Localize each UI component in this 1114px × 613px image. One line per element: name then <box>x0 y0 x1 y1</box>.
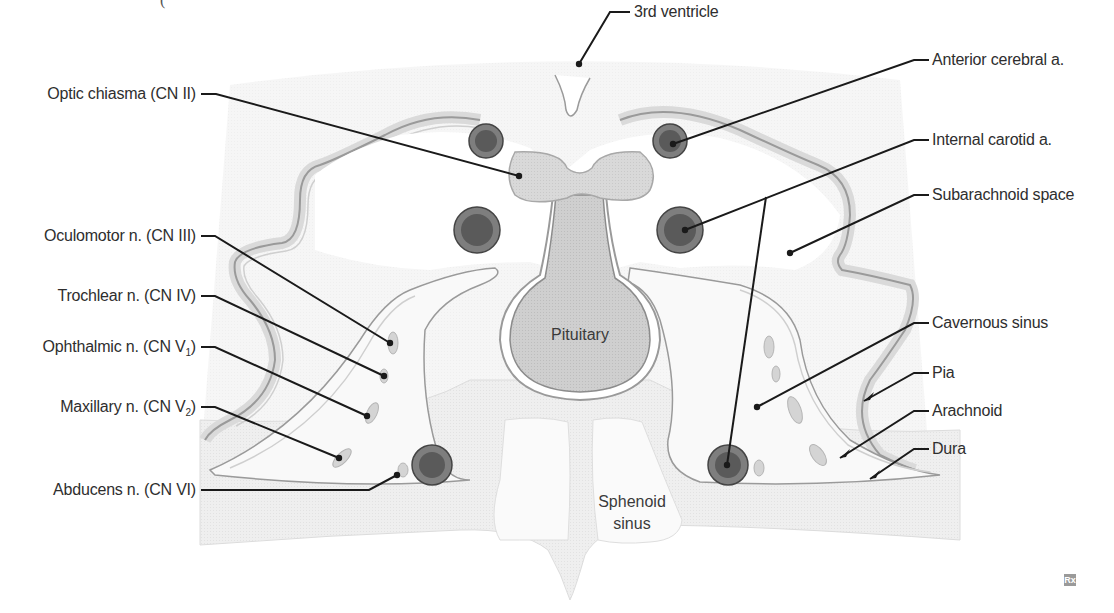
internal-carotid-artery-left-lower <box>412 445 452 485</box>
cavernous-sinus-diagram: ( Optic chiasma (CN II) Oculomotor n. (C… <box>0 0 1114 613</box>
internal-carotid-artery-left-upper <box>454 207 500 253</box>
label-sphenoid-sinus-line1: Sphenoid <box>592 492 672 512</box>
internal-carotid-artery-right-upper <box>657 207 703 253</box>
label-subarachnoid-space: Subarachnoid space <box>932 186 1074 204</box>
label-sphenoid-sinus-line2: sinus <box>592 514 672 534</box>
label-optic-chiasma: Optic chiasma (CN II) <box>47 85 196 103</box>
label-trochlear-nerve: Trochlear n. (CN IV) <box>57 287 196 305</box>
label-maxillary-nerve: Maxillary n. (CN V2) <box>60 398 196 422</box>
label-oculomotor-nerve: Oculomotor n. (CN III) <box>44 227 196 245</box>
sphenoid-sinus-left <box>494 418 570 540</box>
label-maxillary-text: Maxillary n. (CN V <box>60 398 185 415</box>
label-third-ventricle: 3rd ventricle <box>634 3 719 21</box>
label-maxillary-close: ) <box>191 398 196 415</box>
label-pituitary: Pituitary <box>540 325 620 345</box>
cropped-caption-fragment: ( <box>160 0 165 9</box>
label-pia: Pia <box>932 364 955 382</box>
anterior-cerebral-artery-left <box>469 124 503 158</box>
label-ophthalmic-close: ) <box>191 338 196 355</box>
label-internal-carotid-artery: Internal carotid a. <box>932 131 1052 149</box>
label-dura: Dura <box>932 440 966 458</box>
label-ophthalmic-text: Ophthalmic n. (CN V <box>43 338 186 355</box>
label-anterior-cerebral-artery: Anterior cerebral a. <box>932 51 1064 69</box>
label-abducens-nerve: Abducens n. (CN VI) <box>53 481 196 499</box>
label-arachnoid: Arachnoid <box>932 402 1002 420</box>
label-ophthalmic-nerve: Ophthalmic n. (CN V1) <box>43 338 196 362</box>
label-cavernous-sinus: Cavernous sinus <box>932 314 1048 332</box>
rx-logo-icon: Rx <box>1064 574 1076 586</box>
